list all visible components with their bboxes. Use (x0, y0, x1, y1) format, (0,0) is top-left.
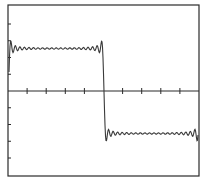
gibbs-plot (0, 0, 201, 183)
